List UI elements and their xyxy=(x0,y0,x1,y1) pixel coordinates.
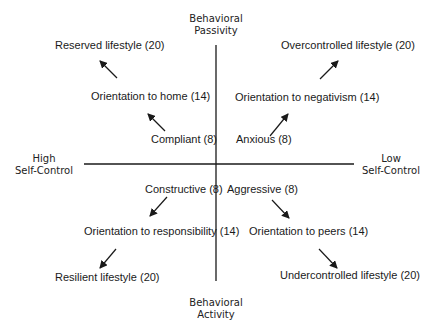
axis-label-bottom-line1: Behavioral xyxy=(186,297,246,309)
arrow-aggressive-to-peers xyxy=(272,200,289,218)
axis-label-left-line2: Self-Control xyxy=(14,165,74,177)
axis-label-left: High Self-Control xyxy=(14,153,74,177)
lifestyle-quadrant-diagram: Behavioral Passivity Behavioral Activity… xyxy=(0,0,432,331)
arrow-home-to-reserved xyxy=(100,61,117,78)
axis-label-bottom: Behavioral Activity xyxy=(186,297,246,321)
arrow-responsibility-to-resilient xyxy=(100,249,116,268)
axis-label-left-line1: High xyxy=(14,153,74,165)
label-compliant: Compliant (8) xyxy=(151,133,217,146)
axis-label-top: Behavioral Passivity xyxy=(186,13,246,37)
axis-label-right: Low Self-Control xyxy=(358,153,424,177)
arrow-negativism-to-overcontrolled xyxy=(320,61,338,79)
label-orientation-to-home: Orientation to home (14) xyxy=(91,90,210,103)
label-anxious: Anxious (8) xyxy=(236,133,292,146)
axis-label-right-line2: Self-Control xyxy=(358,165,424,177)
label-orientation-to-responsibility: Orientation to responsibility (14) xyxy=(84,225,239,238)
label-aggressive: Aggressive (8) xyxy=(227,183,298,196)
label-reserved-lifestyle: Reserved lifestyle (20) xyxy=(55,39,164,52)
label-overcontrolled-lifestyle: Overcontrolled lifestyle (20) xyxy=(281,39,415,52)
label-orientation-to-peers: Orientation to peers (14) xyxy=(249,225,368,238)
arrow-compliant-to-home xyxy=(148,114,165,131)
arrow-constructive-to-responsibility xyxy=(150,197,167,216)
axis-label-bottom-line2: Activity xyxy=(186,309,246,321)
label-resilient-lifestyle: Resilient lifestyle (20) xyxy=(55,271,160,284)
label-undercontrolled-lifestyle: Undercontrolled lifestyle (20) xyxy=(280,269,420,282)
axis-label-right-line1: Low xyxy=(358,153,424,165)
axis-label-top-line1: Behavioral xyxy=(186,13,246,25)
label-orientation-to-negativism: Orientation to negativism (14) xyxy=(235,91,379,104)
arrow-peers-to-undercontrolled xyxy=(319,249,337,268)
axis-label-top-line2: Passivity xyxy=(186,25,246,37)
label-constructive: Constructive (8) xyxy=(145,183,223,196)
